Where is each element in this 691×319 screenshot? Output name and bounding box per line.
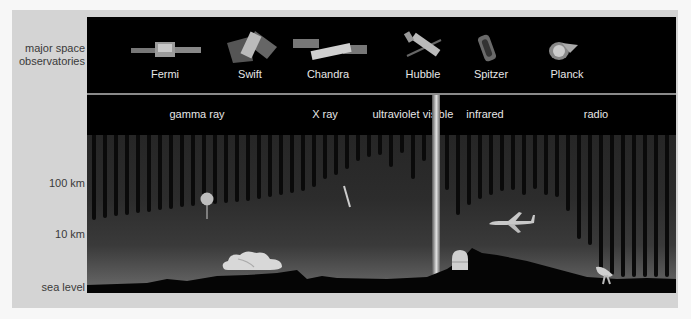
observatory-label-chandra: Chandra bbox=[307, 68, 349, 80]
observatory-label-planck: Planck bbox=[550, 68, 583, 80]
altitude-label-10km: 10 km bbox=[55, 228, 85, 241]
ground-silhouette bbox=[87, 233, 676, 293]
observatory-label-fermi: Fermi bbox=[151, 68, 179, 80]
observatories-label-line1: major space bbox=[19, 42, 85, 55]
band-label-radio: radio bbox=[584, 108, 608, 120]
band-label-gamma-ray: gamma ray bbox=[169, 108, 224, 120]
airplane-icon bbox=[487, 212, 535, 234]
spitzer-icon bbox=[477, 33, 499, 63]
altitude-label-100km: 100 km bbox=[49, 177, 85, 190]
observatory-dome-icon bbox=[451, 249, 469, 271]
observatory-label-spitzer: Spitzer bbox=[474, 68, 508, 80]
radio-dish-icon bbox=[595, 263, 617, 285]
band-label-infrared: infrared bbox=[466, 108, 503, 120]
fermi-icon bbox=[131, 39, 201, 61]
observatories-label-line2: observatories bbox=[19, 55, 85, 68]
spectrum-stage: Fermi Swift Chandra Hubble Spitzer Planc… bbox=[87, 17, 676, 293]
swift-icon bbox=[227, 27, 279, 63]
planck-icon bbox=[548, 39, 578, 61]
observatory-label-swift: Swift bbox=[238, 68, 262, 80]
chandra-icon bbox=[293, 37, 367, 61]
balloon-icon bbox=[200, 192, 214, 220]
altitude-label-sea-level: sea level bbox=[42, 281, 85, 294]
band-label-x-ray: X ray bbox=[312, 108, 338, 120]
band-label-ultraviolet: ultraviolet bbox=[372, 108, 419, 120]
observatories-axis-label: major space observatories bbox=[19, 42, 85, 68]
separator-line bbox=[87, 93, 676, 95]
rocket-icon bbox=[342, 185, 352, 209]
observatory-label-hubble: Hubble bbox=[406, 68, 441, 80]
hubble-icon bbox=[403, 30, 443, 62]
